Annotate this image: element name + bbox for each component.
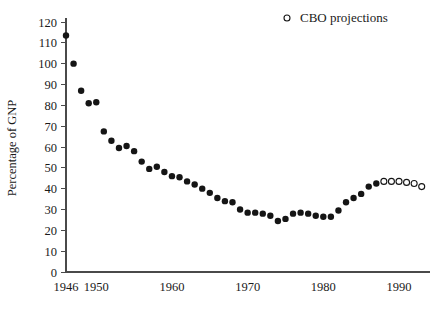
data-point-projected	[381, 178, 387, 184]
data-point-actual	[101, 128, 107, 134]
data-point-actual	[222, 198, 228, 204]
y-axis-tick-label: 70	[45, 120, 58, 134]
data-point-actual	[146, 166, 152, 172]
data-point-actual	[313, 213, 319, 219]
y-axis-tick-label: 10	[45, 245, 58, 259]
data-point-actual	[86, 100, 92, 106]
data-point-actual	[260, 210, 266, 216]
data-point-projected	[388, 178, 394, 184]
x-axis-tick-label: 1950	[84, 280, 109, 294]
data-point-actual	[237, 206, 243, 212]
data-point-actual	[350, 195, 356, 201]
data-point-actual	[297, 209, 303, 215]
y-axis-tick-label: 120	[38, 16, 57, 30]
x-axis-tick-label: 1970	[235, 280, 260, 294]
x-axis: 194619501960197019801990	[54, 272, 431, 294]
data-point-actual	[63, 32, 69, 38]
data-point-actual	[161, 169, 167, 175]
data-point-projected	[396, 178, 402, 184]
data-point-actual	[191, 181, 197, 187]
data-point-actual	[138, 158, 144, 164]
data-point-actual	[116, 145, 122, 151]
y-axis-title: Percentage of GNP	[5, 100, 19, 197]
data-point-actual	[373, 180, 379, 186]
y-axis: 0102030405060708090100110120	[38, 16, 66, 280]
data-point-actual	[214, 195, 220, 201]
legend-marker-projected	[284, 15, 290, 21]
y-axis-tick-label: 90	[45, 78, 58, 92]
data-point-actual	[169, 173, 175, 179]
data-point-actual	[305, 210, 311, 216]
data-point-actual	[70, 60, 76, 66]
data-point-projected	[404, 179, 410, 185]
chart-container: 0102030405060708090100110120 19461950196…	[0, 0, 437, 312]
x-axis-tick-label: 1946	[54, 280, 79, 294]
data-point-actual	[244, 209, 250, 215]
y-axis-tick-label: 30	[45, 203, 58, 217]
y-axis-tick-label: 20	[45, 224, 58, 238]
data-point-actual	[252, 209, 258, 215]
data-point-actual	[275, 218, 281, 224]
y-axis-tick-label: 80	[45, 99, 58, 113]
data-point-actual	[282, 216, 288, 222]
data-point-projected	[411, 180, 417, 186]
y-axis-tick-label: 40	[45, 182, 58, 196]
data-point-actual	[123, 143, 129, 149]
data-point-actual	[131, 148, 137, 154]
x-axis-tick-label: 1980	[311, 280, 336, 294]
data-point-projected	[419, 184, 425, 190]
data-point-actual	[229, 199, 235, 205]
data-point-actual	[358, 191, 364, 197]
y-axis-tick-label: 50	[45, 161, 58, 175]
data-point-actual	[78, 88, 84, 94]
data-point-actual	[93, 99, 99, 105]
data-point-actual	[176, 174, 182, 180]
data-point-actual	[328, 214, 334, 220]
legend-label-projected: CBO projections	[300, 10, 388, 25]
x-axis-tick-label: 1960	[159, 280, 184, 294]
data-point-actual	[154, 164, 160, 170]
debt-gnp-scatter-chart: 0102030405060708090100110120 19461950196…	[0, 0, 437, 312]
data-point-actual	[343, 199, 349, 205]
data-point-actual	[184, 178, 190, 184]
data-point-actual	[267, 213, 273, 219]
data-point-actual	[366, 183, 372, 189]
data-point-actual	[320, 214, 326, 220]
data-point-actual	[290, 210, 296, 216]
x-axis-tick-label: 1990	[387, 280, 412, 294]
data-point-actual	[108, 138, 114, 144]
y-axis-tick-label: 100	[38, 57, 57, 71]
data-point-actual	[335, 207, 341, 213]
data-point-actual	[199, 185, 205, 191]
data-point-actual	[207, 190, 213, 196]
y-axis-tick-label: 110	[39, 36, 57, 50]
data-series-layer	[63, 32, 425, 224]
y-axis-tick-label: 60	[45, 141, 58, 155]
y-axis-tick-label: 0	[51, 266, 57, 280]
chart-legend: CBO projections	[284, 10, 388, 25]
